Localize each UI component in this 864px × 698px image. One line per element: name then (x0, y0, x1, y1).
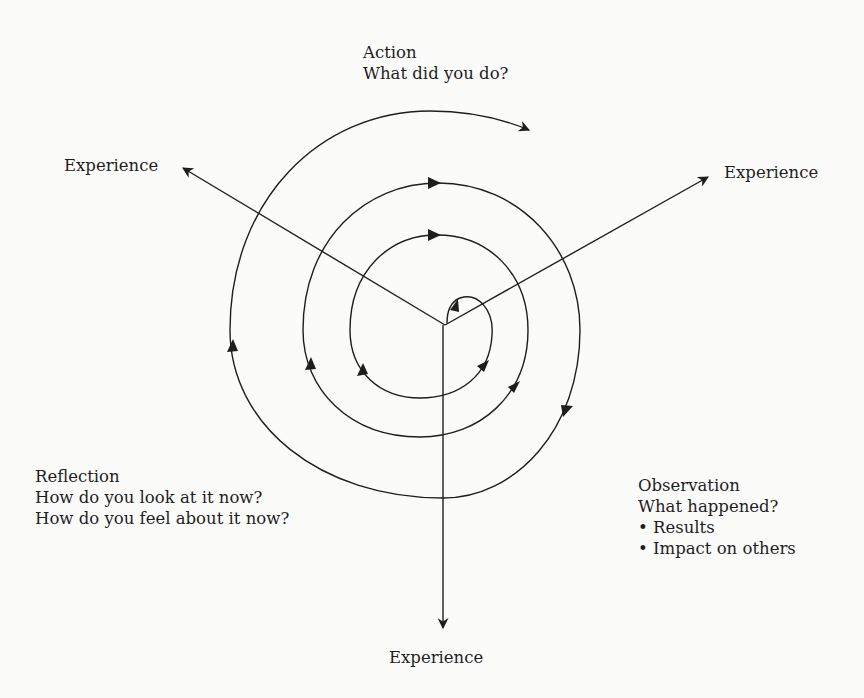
experience-left-label: Experience (64, 155, 158, 176)
action-title: Action (363, 42, 508, 63)
spiral-diagram (0, 0, 864, 698)
reflection-question-2: How do you feel about it now? (35, 508, 289, 529)
axis-up-right-arrow (445, 177, 708, 325)
action-label: Action What did you do? (363, 42, 508, 84)
arrowhead-ring2-right (561, 405, 573, 417)
arrowhead-ring2-left (227, 339, 238, 352)
observation-question: What happened? (638, 496, 796, 517)
spiral-path (230, 111, 580, 498)
spiral-direction-arrows (227, 177, 573, 417)
action-question: What did you do? (363, 63, 508, 84)
axes (183, 168, 708, 628)
observation-bullet-results: • Results (638, 517, 796, 538)
reflection-label: Reflection How do you look at it now? Ho… (35, 466, 289, 529)
observation-label: Observation What happened? • Results • I… (638, 475, 796, 559)
reflection-question-1: How do you look at it now? (35, 487, 289, 508)
experience-right-label: Experience (724, 162, 818, 183)
experience-bottom-label: Experience (389, 647, 483, 668)
observation-bullet-impact: • Impact on others (638, 538, 796, 559)
arrowhead-inner-right (477, 360, 489, 372)
arrowhead-ring1-top (428, 229, 441, 241)
arrowhead-ring2-top (428, 177, 441, 189)
axis-up-left-arrow (183, 168, 445, 325)
reflection-title: Reflection (35, 466, 289, 487)
observation-title: Observation (638, 475, 796, 496)
